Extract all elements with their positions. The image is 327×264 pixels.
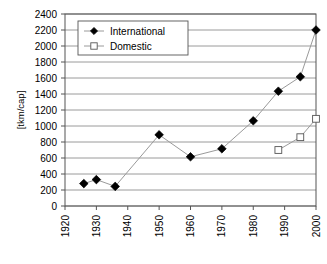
x-tick-label-1940: 1940 <box>122 215 133 238</box>
y-tick-label-800: 800 <box>40 137 57 148</box>
data-point-domestic-1995 <box>297 134 304 141</box>
y-tick-label-1400: 1400 <box>35 89 58 100</box>
data-point-domestic-2000 <box>313 115 320 122</box>
y-tick-label-2000: 2000 <box>35 41 58 52</box>
x-tick-label-1990: 1990 <box>279 215 290 238</box>
y-tick-label-1600: 1600 <box>35 73 58 84</box>
y-tick-label-1000: 1000 <box>35 121 58 132</box>
x-tick-label-1920: 1920 <box>60 215 71 238</box>
x-tick-label-1930: 1930 <box>91 215 102 238</box>
y-tick-label-1800: 1800 <box>35 57 58 68</box>
y-tick-label-600: 600 <box>40 153 57 164</box>
y-tick-label-400: 400 <box>40 169 57 180</box>
chart-container: 0200400600800100012001400160018002000220… <box>0 0 327 264</box>
legend-label-international: International <box>110 26 165 37</box>
chart-legend: InternationalDomestic <box>78 21 188 55</box>
x-tick-label-1960: 1960 <box>185 215 196 238</box>
data-point-domestic-1988 <box>275 147 282 154</box>
x-tick-label-1980: 1980 <box>248 215 259 238</box>
line-chart: 0200400600800100012001400160018002000220… <box>0 0 327 264</box>
y-tick-label-2400: 2400 <box>35 9 58 20</box>
y-tick-label-200: 200 <box>40 185 57 196</box>
legend-label-domestic: Domestic <box>110 41 152 52</box>
y-tick-label-2200: 2200 <box>35 25 58 36</box>
y-tick-label-1200: 1200 <box>35 105 58 116</box>
legend-marker-domestic <box>91 43 97 49</box>
y-tick-label-0: 0 <box>51 201 57 212</box>
x-axis-tick-labels: 192019301940195019601970198019902000 <box>60 215 322 238</box>
x-tick-label-2000: 2000 <box>311 215 322 238</box>
x-tick-label-1950: 1950 <box>154 215 165 238</box>
y-axis-title: [tkm/cap] <box>15 91 26 130</box>
x-tick-label-1970: 1970 <box>216 215 227 238</box>
